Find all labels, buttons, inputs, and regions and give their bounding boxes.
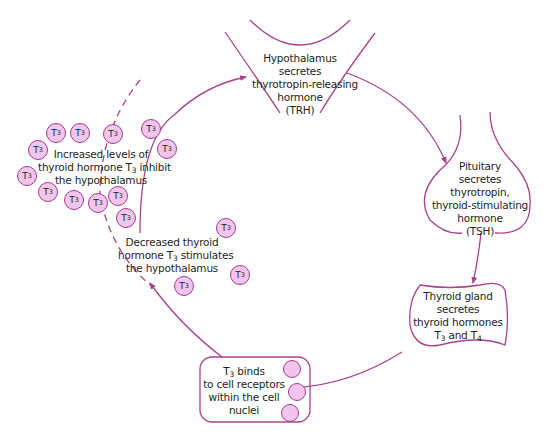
t3-bubble: T3 <box>116 208 136 228</box>
hypothalamus-line: thyrotropin-releasing <box>252 78 348 91</box>
hypothalamus-line: hormone <box>252 91 348 104</box>
t3-bubble: T3 <box>216 218 236 238</box>
cell-nucleus <box>281 404 299 422</box>
t3-bubble: T3 <box>70 123 90 143</box>
pituitary-line: thyroid-stimulating <box>430 199 530 212</box>
t3-bubble: T3 <box>38 182 58 202</box>
t3-bubble: T3 <box>230 265 250 285</box>
pituitary-line: Pituitary <box>430 160 530 173</box>
pituitary-line: (TSH) <box>430 225 530 238</box>
t3-bubble: T3 <box>108 186 128 206</box>
pituitary-line: secretes <box>430 173 530 186</box>
stimulate-line: the hypothalamus <box>118 262 226 275</box>
t3-bubble: T3 <box>17 166 37 186</box>
cell-label: T3 binds to cell receptors within the ce… <box>198 365 290 417</box>
inhibit-annotation: Increased levels of thyroid hormone T3 i… <box>38 148 164 187</box>
stimulate-line: hormone T3 stimulates <box>118 249 226 262</box>
pituitary-line: thyrotropin, <box>430 186 530 199</box>
hypothalamus-line: (TRH) <box>252 104 348 117</box>
t3-bubble: T3 <box>46 123 66 143</box>
stimulate-annotation: Decreased thyroid hormone T3 stimulates … <box>118 236 226 275</box>
arrow-trh-to-pituitary <box>347 73 446 163</box>
thyroid-line-hormones: T3 and T4 <box>410 329 506 342</box>
hypothalamus-line: Hypothalamus <box>252 52 348 65</box>
inhibit-line: thyroid hormone T3 inhibit <box>38 161 164 174</box>
t3-bubble: T3 <box>64 190 84 210</box>
thyroid-line: Thyroid gland <box>410 290 506 303</box>
stimulate-line: Decreased thyroid <box>118 236 226 249</box>
t3-bubble: T3 <box>88 193 108 213</box>
t3-bubble: T3 <box>157 139 177 159</box>
cell-line-binds: T3 binds <box>198 365 290 378</box>
cell-line: nuclei <box>198 404 290 417</box>
hypothalamus-outline-top <box>250 20 350 45</box>
thyroid-line: secretes <box>410 303 506 316</box>
cell-nucleus <box>288 383 306 401</box>
cell-line: within the cell <box>198 391 290 404</box>
cell-line: to cell receptors <box>198 378 290 391</box>
pituitary-label: Pituitary secretes thyrotropin, thyroid-… <box>430 160 530 238</box>
thyroid-line: thyroid hormones <box>410 316 506 329</box>
thyroid-label: Thyroid gland secretes thyroid hormones … <box>410 290 506 342</box>
t3-bubble: T3 <box>141 119 161 139</box>
arrow-pituitary-to-thyroid <box>473 233 481 283</box>
cell-nucleus <box>283 360 301 378</box>
hypothalamus-line: secretes <box>252 65 348 78</box>
hypothalamus-label: Hypothalamus secretes thyrotropin-releas… <box>252 52 348 117</box>
t3-bubble: T3 <box>103 124 123 144</box>
inhibit-line: Increased levels of <box>38 148 164 161</box>
arrow-thyroid-to-cell <box>292 352 402 388</box>
t3-bubble: T3 <box>174 276 194 296</box>
pituitary-line: hormone <box>430 212 530 225</box>
t3-bubble: T3 <box>28 140 48 160</box>
inhibit-line: the hypothalamus <box>38 174 164 187</box>
